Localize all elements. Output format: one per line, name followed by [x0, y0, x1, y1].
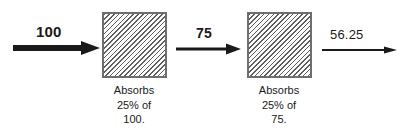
- first-absorber-caption-line1: Absorbs: [79, 83, 189, 98]
- first-absorber-box: [102, 12, 167, 78]
- second-absorber-caption: Absorbs 25% of 75.: [224, 83, 334, 127]
- input-arrow-label: 100: [36, 24, 62, 39]
- intermediate-arrow: [176, 42, 242, 56]
- second-absorber-caption-line1: Absorbs: [224, 83, 334, 98]
- output-arrow-label: 56.25: [330, 28, 364, 41]
- input-arrow: [13, 40, 101, 56]
- first-absorber-caption-line2: 25% of: [79, 98, 189, 113]
- absorption-flow-diagram: 100 Absorbs 25% of 100. 75 Absorbs 25% o…: [0, 0, 401, 135]
- second-absorber-caption-line3: 75.: [224, 112, 334, 127]
- intermediate-arrow-label: 75: [196, 26, 212, 40]
- second-absorber-box: [247, 12, 312, 78]
- output-arrow: [322, 44, 398, 56]
- second-absorber-caption-line2: 25% of: [224, 98, 334, 113]
- first-absorber-caption: Absorbs 25% of 100.: [79, 83, 189, 127]
- first-absorber-caption-line3: 100.: [79, 112, 189, 127]
